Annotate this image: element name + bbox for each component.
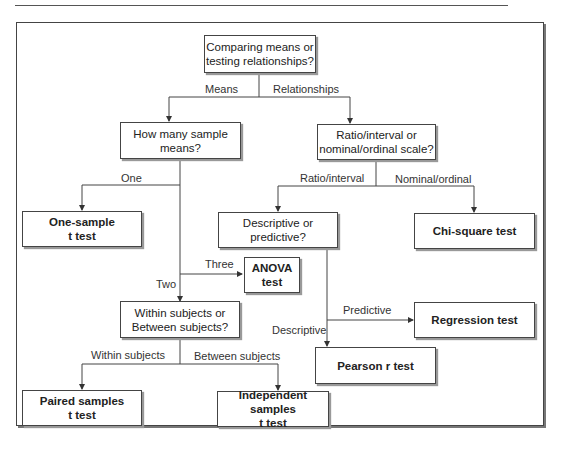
- node-scale: Ratio/interval or nominal/ordinal scale?: [317, 124, 436, 160]
- node-chi-square-test: Chi-square test: [414, 213, 535, 249]
- label-between-subjects: Between subjects: [194, 350, 280, 362]
- node-regression-test: Regression test: [414, 302, 535, 338]
- label-means: Means: [205, 83, 238, 95]
- node-pearson-r-test: Pearson r test: [315, 347, 436, 384]
- label-predictive: Predictive: [343, 304, 391, 316]
- node-descriptive-or-predictive: Descriptive or predictive?: [218, 212, 338, 248]
- label-two: Two: [156, 278, 176, 290]
- node-within-between: Within subjects or Between subjects?: [120, 301, 240, 338]
- label-relationships: Relationships: [273, 83, 339, 95]
- label-three: Three: [205, 258, 234, 270]
- label-one: One: [121, 172, 142, 184]
- label-ratio-interval: Ratio/interval: [300, 172, 364, 184]
- node-root: Comparing means or testing relationships…: [204, 35, 316, 73]
- node-anova-test: ANOVA test: [244, 257, 300, 293]
- label-descriptive: Descriptive: [272, 324, 326, 336]
- label-within-subjects: Within subjects: [91, 349, 165, 361]
- node-paired-samples-t-test: Paired samples t test: [22, 390, 142, 426]
- node-how-many-means: How many sample means?: [120, 122, 241, 159]
- node-independent-samples-t-test: Independent samples t test: [217, 391, 329, 427]
- node-one-sample-t-test: One-sample t test: [22, 211, 142, 247]
- label-nominal-ordinal: Nominal/ordinal: [395, 173, 471, 185]
